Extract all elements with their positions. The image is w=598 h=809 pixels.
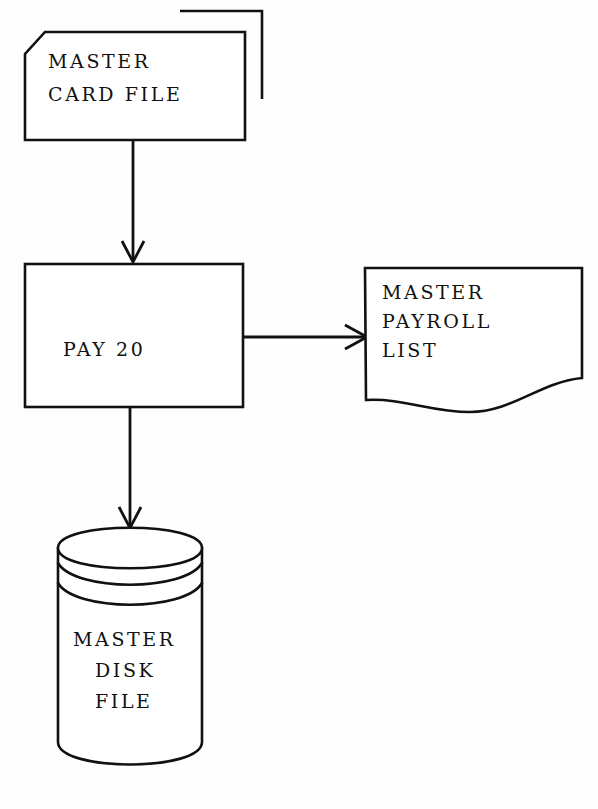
flowchart-svg: MASTER CARD FILE PAY 20 MASTER PAYROLL L…: [0, 0, 598, 809]
master-payroll-list-label-line1: MASTER: [382, 281, 485, 303]
master-disk-file-label-line2: DISK: [95, 659, 155, 681]
master-disk-file-label-line3: FILE: [95, 690, 153, 712]
master-payroll-list-label-line2: PAYROLL: [382, 310, 492, 332]
master-payroll-list-label-line3: LIST: [382, 339, 438, 361]
master-card-file-label-line2: CARD FILE: [48, 83, 182, 105]
edge-pay-20-to-payroll-list: [243, 325, 367, 349]
cylinder-top-ellipse: [58, 528, 202, 569]
cylinder-body-outline: [58, 548, 202, 765]
process-box-outline: [25, 264, 243, 407]
node-master-card-file[interactable]: MASTER CARD FILE: [25, 11, 262, 140]
flowchart-canvas: MASTER CARD FILE PAY 20 MASTER PAYROLL L…: [0, 0, 598, 809]
node-master-disk-file[interactable]: MASTER DISK FILE: [58, 528, 202, 765]
master-card-file-label-line1: MASTER: [48, 50, 151, 72]
master-disk-file-label-line1: MASTER: [73, 628, 176, 650]
edge-pay-20-to-disk-file: [119, 407, 141, 528]
edge-card-to-pay-20: [122, 140, 144, 262]
pay-20-label: PAY 20: [63, 338, 145, 360]
node-master-payroll-list[interactable]: MASTER PAYROLL LIST: [365, 268, 582, 412]
node-pay-20[interactable]: PAY 20: [25, 264, 243, 407]
